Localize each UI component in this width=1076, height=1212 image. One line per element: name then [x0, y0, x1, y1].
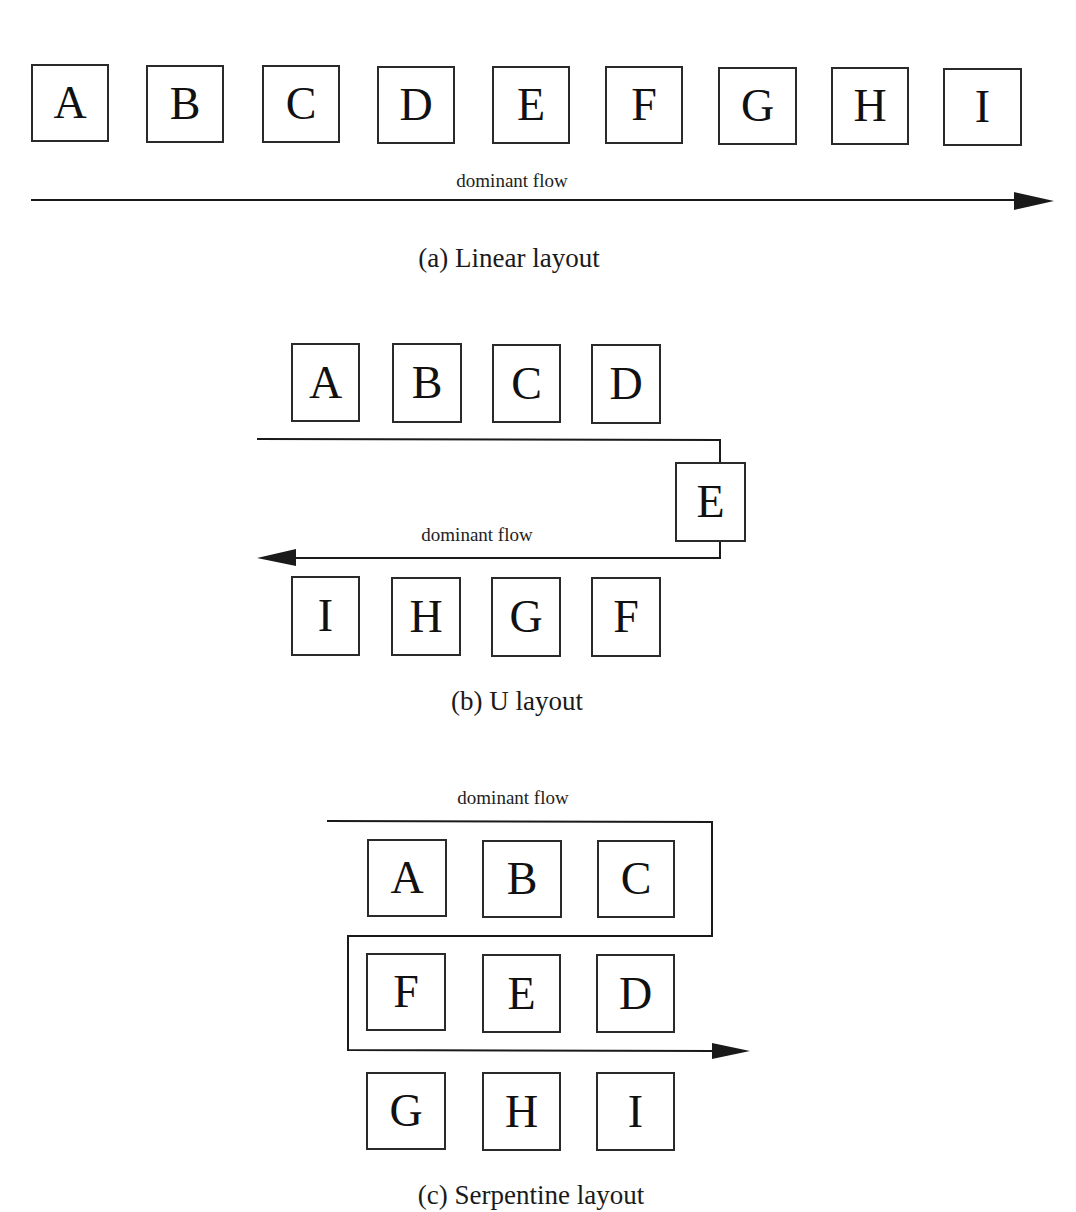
serpentine-box-a: A	[367, 839, 447, 917]
serpentine-box-b: B	[482, 840, 562, 918]
u-caption: (b) U layout	[451, 686, 583, 717]
linear-box-i: I	[943, 68, 1022, 146]
serpentine-box-f: F	[366, 953, 446, 1031]
serpentine-box-i: I	[596, 1072, 675, 1151]
u-box-g: G	[491, 577, 561, 657]
linear-box-h: H	[831, 67, 909, 145]
linear-flow-arrow	[31, 192, 1054, 210]
linear-box-f: F	[605, 66, 683, 144]
serpentine-box-g: G	[366, 1072, 446, 1150]
u-box-i: I	[291, 576, 360, 656]
linear-box-b: B	[146, 65, 224, 143]
linear-flow-label: dominant flow	[456, 170, 567, 192]
u-box-b: B	[392, 343, 462, 423]
serpentine-flow-label: dominant flow	[457, 787, 568, 809]
u-box-f: F	[591, 577, 661, 657]
serpentine-box-c: C	[597, 840, 675, 918]
linear-box-a: A	[31, 64, 109, 142]
serpentine-box-d: D	[596, 954, 675, 1033]
serpentine-box-h: H	[482, 1072, 561, 1151]
serpentine-box-e: E	[482, 954, 561, 1033]
u-box-d: D	[591, 344, 661, 424]
linear-box-g: G	[718, 67, 797, 145]
u-flow-label: dominant flow	[421, 524, 532, 546]
linear-box-c: C	[262, 65, 340, 143]
serpentine-caption: (c) Serpentine layout	[418, 1180, 644, 1211]
u-box-a: A	[291, 343, 360, 422]
u-box-e: E	[675, 462, 746, 542]
u-flow-arrow	[257, 439, 720, 566]
linear-box-d: D	[377, 66, 455, 144]
linear-box-e: E	[492, 66, 570, 144]
u-box-h: H	[391, 577, 461, 656]
u-box-c: C	[492, 344, 561, 423]
linear-caption: (a) Linear layout	[418, 243, 599, 274]
